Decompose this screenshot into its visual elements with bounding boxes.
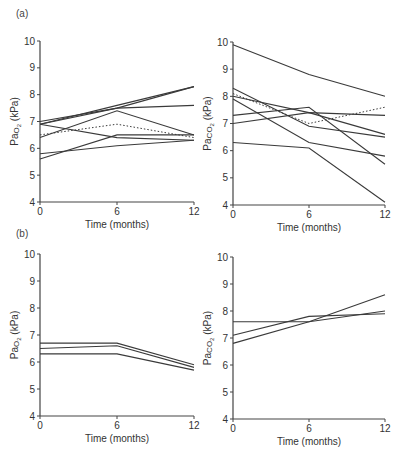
y-axis-label: PaO2 (kPa)	[9, 97, 22, 145]
series-patient-2	[40, 346, 194, 368]
y-tick-label: 9	[29, 62, 35, 73]
y-tick-label: 6	[29, 357, 35, 368]
series-patient-5	[233, 113, 385, 124]
chart-a-right: 456789100612Time (months)PaCO2 (kPa)	[202, 37, 391, 234]
x-axis-label: Time (months)	[277, 222, 341, 233]
y-tick-label: 6	[29, 143, 35, 154]
y-tick-label: 7	[222, 333, 228, 344]
series-patient-5	[40, 124, 194, 140]
y-tick-label: 6	[222, 360, 228, 371]
x-tick-label: 0	[37, 420, 43, 431]
x-axis-label: Time (months)	[277, 436, 341, 447]
x-tick-label: 0	[37, 206, 43, 217]
y-tick-label: 5	[222, 387, 228, 398]
chart-b-left: 456789100612Time (months)PaO2 (kPa)	[9, 249, 200, 445]
x-tick-label: 0	[230, 423, 236, 434]
y-tick-label: 10	[24, 36, 36, 47]
y-tick-label: 5	[29, 170, 35, 181]
series-patient-4	[233, 107, 385, 164]
series-patient-1	[233, 45, 385, 97]
x-tick-label: 6	[306, 423, 312, 434]
series-mean	[40, 124, 194, 137]
x-tick-label: 12	[188, 420, 200, 431]
y-tick-label: 7	[29, 116, 35, 127]
y-tick-label: 5	[29, 384, 35, 395]
series-mean	[233, 94, 385, 124]
x-axis-label: Time (months)	[85, 219, 149, 230]
x-tick-label: 12	[379, 209, 391, 220]
y-tick-label: 4	[222, 200, 228, 211]
y-axis-label: PaO2 (kPa)	[9, 311, 22, 359]
y-tick-label: 6	[222, 145, 228, 156]
series-patient-3	[40, 354, 194, 370]
y-axis-label: PaCO2 (kPa)	[202, 311, 215, 365]
y-tick-label: 8	[29, 303, 35, 314]
y-tick-label: 7	[29, 330, 35, 341]
y-tick-label: 4	[222, 414, 228, 425]
chart-b-right: 456789100612Time (months)PaCO2 (kPa)	[202, 252, 391, 448]
y-tick-label: 10	[24, 249, 36, 260]
y-tick-label: 5	[222, 172, 228, 183]
y-tick-label: 9	[29, 276, 35, 287]
series-patient-6	[40, 135, 194, 159]
series-patient-3	[233, 295, 385, 344]
y-tick-label: 8	[29, 89, 35, 100]
figure-canvas: 456789100612Time (months)PaO2 (kPa)45678…	[0, 0, 404, 459]
y-tick-label: 9	[222, 279, 228, 290]
x-tick-label: 6	[114, 206, 120, 217]
y-tick-label: 10	[217, 252, 229, 263]
series-patient-3	[233, 96, 385, 134]
x-tick-label: 12	[379, 423, 391, 434]
series-patient-1	[40, 87, 194, 125]
x-tick-label: 12	[188, 206, 200, 217]
y-tick-label: 7	[222, 118, 228, 129]
x-tick-label: 6	[306, 209, 312, 220]
y-axis-label: PaCO2 (kPa)	[202, 96, 215, 150]
y-tick-label: 9	[222, 64, 228, 75]
series-patient-2	[233, 314, 385, 336]
x-axis-label: Time (months)	[85, 433, 149, 444]
x-tick-label: 6	[114, 420, 120, 431]
chart-a-left: 456789100612Time (months)PaO2 (kPa)	[9, 36, 200, 231]
y-tick-label: 4	[29, 411, 35, 422]
series-patient-3	[40, 105, 194, 124]
y-tick-label: 10	[217, 37, 229, 48]
x-tick-label: 0	[230, 209, 236, 220]
y-tick-label: 8	[222, 91, 228, 102]
y-tick-label: 4	[29, 197, 35, 208]
y-tick-label: 8	[222, 306, 228, 317]
series-patient-7	[40, 140, 194, 153]
